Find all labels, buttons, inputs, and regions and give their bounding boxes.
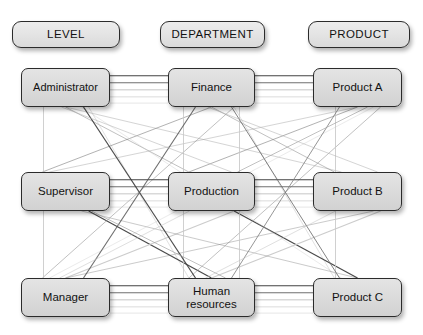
header-box-level[interactable]: LEVEL <box>12 21 120 48</box>
header-box-product[interactable]: PRODUCT <box>308 21 410 48</box>
node-manager[interactable]: Manager <box>21 278 110 317</box>
header-box-product-label: PRODUCT <box>326 28 392 41</box>
node-production-label: Production <box>181 185 242 198</box>
edge-extra-5 <box>238 107 368 172</box>
edge-extra-7 <box>208 107 378 172</box>
node-finance-label: Finance <box>188 81 235 94</box>
header-box-department[interactable]: DEPARTMENT <box>160 21 265 48</box>
header-box-department-label: DEPARTMENT <box>168 28 256 41</box>
node-human-resources[interactable]: Human resources <box>168 278 255 317</box>
node-supervisor[interactable]: Supervisor <box>21 172 110 211</box>
edge-level1-dept0 <box>42 107 211 172</box>
edge-dept2-prod1 <box>212 211 381 278</box>
node-manager-label: Manager <box>40 291 91 304</box>
node-product-a-label: Product A <box>330 81 386 94</box>
node-product-b[interactable]: Product B <box>313 172 402 211</box>
node-product-b-label: Product B <box>329 185 386 198</box>
edge-extra-6 <box>62 107 232 172</box>
diagram-canvas: LEVELDEPARTMENTPRODUCTAdministratorSuper… <box>0 0 423 335</box>
node-finance[interactable]: Finance <box>168 68 255 107</box>
node-supervisor-label: Supervisor <box>35 185 96 198</box>
node-product-c[interactable]: Product C <box>313 278 402 317</box>
node-human-resources-label: Human resources <box>169 285 254 311</box>
node-administrator[interactable]: Administrator <box>21 68 110 107</box>
node-production[interactable]: Production <box>168 172 255 211</box>
node-administrator-label: Administrator <box>30 81 101 93</box>
node-product-c-label: Product C <box>329 291 386 304</box>
edge-level2-dept1 <box>66 211 235 278</box>
header-box-level-label: LEVEL <box>44 28 88 41</box>
edge-dept1-prod0 <box>189 107 358 172</box>
node-product-a[interactable]: Product A <box>313 68 402 107</box>
